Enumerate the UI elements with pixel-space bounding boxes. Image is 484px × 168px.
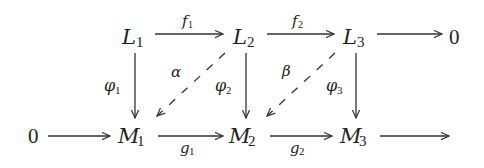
node-M3: M 3 [339,124,367,149]
label-f1: f 1 [181,12,193,30]
arrow-beta-dashed [267,53,335,116]
label-f1-sub: 1 [188,19,193,30]
label-alpha: α [171,63,181,81]
label-beta: β [281,62,291,80]
node-L1-base: L [121,25,136,49]
node-L2: L 2 [232,25,255,50]
label-g2-sub: 2 [299,145,305,157]
label-phi1-sub: 1 [115,84,121,96]
label-f2-sub: 2 [298,19,303,30]
node-M3-sub: 3 [359,133,367,149]
label-phi2: φ 2 [215,76,232,96]
label-g1-sub: 1 [189,145,195,157]
label-phi1: φ 1 [104,76,121,96]
node-zero-top: 0 [449,25,460,49]
node-L3: L 3 [342,25,365,50]
node-L3-base: L [342,25,357,49]
node-M2: M 2 [228,124,256,149]
node-zero-top-label: 0 [449,25,460,49]
node-L2-sub: 2 [247,34,255,50]
node-M1: M 1 [117,124,145,149]
label-phi3: φ 3 [326,76,343,96]
node-L3-sub: 3 [357,34,365,50]
node-L2-base: L [232,25,247,49]
label-g1: g 1 [180,139,195,157]
node-M1-sub: 1 [137,133,145,149]
node-zero-bottom-label: 0 [28,124,39,148]
node-L1-sub: 1 [136,34,144,50]
node-L1: L 1 [121,25,144,50]
label-g2: g 2 [290,139,305,157]
node-zero-bottom: 0 [28,124,39,148]
label-f2: f 2 [291,12,303,30]
node-M2-sub: 2 [248,133,256,149]
label-phi2-sub: 2 [226,84,232,96]
commutative-diagram: L 1 L 2 L 3 0 0 M 1 M 2 M 3 f 1 f 2 φ [0,0,484,168]
label-phi3-sub: 3 [337,84,343,96]
